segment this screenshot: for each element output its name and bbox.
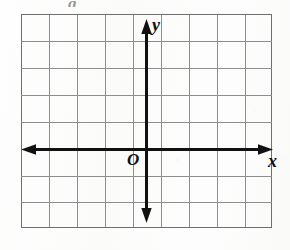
x-axis-label: x: [268, 152, 277, 170]
grid-line-vertical: [189, 14, 190, 228]
grid-line-horizontal: [21, 14, 272, 15]
grid-line-horizontal: [21, 202, 272, 203]
grid-area: [21, 14, 272, 228]
grid-line-vertical: [133, 14, 134, 228]
grid-line-vertical: [49, 14, 50, 228]
grid-line-horizontal: [21, 41, 272, 42]
partial-glyph-artifact: g: [68, 0, 79, 7]
grid-line-horizontal: [21, 122, 272, 123]
grid-line-horizontal: [21, 149, 272, 150]
grid-line-vertical: [105, 14, 106, 228]
grid-line-vertical: [271, 14, 272, 228]
grid-line-horizontal: [21, 227, 272, 228]
grid-line-vertical: [217, 14, 218, 228]
grid-line-horizontal: [21, 68, 272, 69]
grid-line-vertical: [245, 14, 246, 228]
origin-label: O: [127, 151, 139, 168]
grid-line-vertical: [21, 14, 22, 228]
grid-line-vertical: [161, 14, 162, 228]
grid-line-horizontal: [21, 95, 272, 96]
grid-line-horizontal: [21, 176, 272, 177]
grid-line-vertical: [77, 14, 78, 228]
coordinate-grid-figure: g y: [0, 0, 290, 250]
y-axis-label: y: [152, 16, 160, 34]
